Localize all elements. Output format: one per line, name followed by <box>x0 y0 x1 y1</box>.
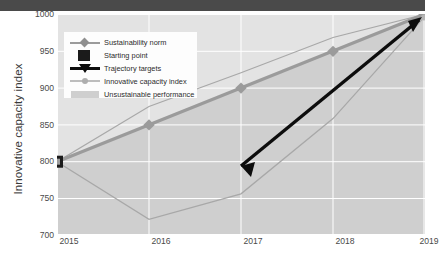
legend-label-2: Trajectory targets <box>104 64 161 73</box>
y-tick-1000: 1000 <box>20 9 54 19</box>
line-diamond-marker-icon <box>70 37 100 48</box>
starting-point-inner-diamond <box>57 159 60 165</box>
legend-label-4: Unsustainable performance <box>104 90 194 99</box>
x-tick-2019: 2019 <box>399 236 443 246</box>
legend-item-innovative-capacity-index[interactable]: Innovative capacity index <box>70 75 192 87</box>
top-banner-bar <box>0 0 425 11</box>
legend-label-1: Starting point <box>104 51 148 60</box>
x-tick-2016: 2016 <box>131 236 191 246</box>
legend-label-0: Sustainability norm <box>104 38 166 47</box>
filled-square-marker-icon <box>70 50 100 61</box>
x-tick-2017: 2017 <box>223 236 283 246</box>
legend-label-3: Innovative capacity index <box>104 77 187 86</box>
legend-item-starting-point[interactable]: Starting point <box>70 49 192 61</box>
legend-item-trajectory-targets[interactable]: Trajectory targets <box>70 62 192 74</box>
chart-legend: Sustainability norm Starting point Traje… <box>64 32 197 98</box>
y-tick-900: 900 <box>20 83 54 93</box>
x-tick-2018: 2018 <box>315 236 375 246</box>
y-tick-800: 800 <box>20 156 54 166</box>
y-tick-950: 950 <box>20 46 54 56</box>
y-tick-750: 750 <box>20 193 54 203</box>
shaded-band-icon <box>70 89 100 100</box>
legend-item-sustainability-norm[interactable]: Sustainability norm <box>70 36 192 48</box>
arrow-triangle-marker-icon <box>70 63 100 74</box>
y-tick-850: 850 <box>20 120 54 130</box>
y-axis-ticks: 1000 950 900 850 800 750 700 <box>18 11 54 260</box>
line-circle-marker-icon <box>70 76 100 87</box>
x-tick-2015: 2015 <box>39 236 99 246</box>
legend-item-unsustainable-performance[interactable]: Unsustainable performance <box>70 88 192 100</box>
chart-canvas: Innovative capacity index 1000 950 900 8… <box>0 11 432 260</box>
